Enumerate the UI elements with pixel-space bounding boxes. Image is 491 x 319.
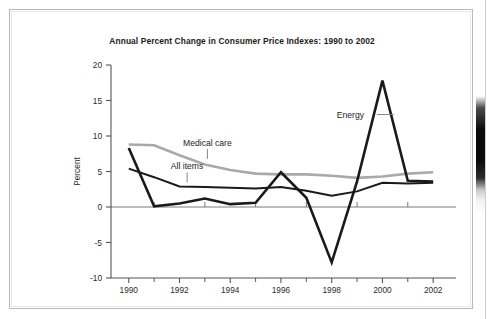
y-axis-tick-label: -5 bbox=[95, 238, 103, 248]
x-axis-tick-label: 1998 bbox=[322, 285, 341, 295]
y-axis-tick-label: 5 bbox=[97, 167, 102, 177]
y-axis-tick-label: 0 bbox=[97, 202, 102, 212]
y-axis-tick-label: 15 bbox=[93, 96, 103, 106]
svg-text:All items: All items bbox=[171, 161, 203, 171]
page-frame: Annual Percent Change in Consumer Price … bbox=[9, 9, 473, 309]
line-chart: 20151050-5-10Percent19901992199419961998… bbox=[10, 10, 474, 310]
series-annotation-energy: Energy bbox=[337, 110, 394, 120]
svg-text:Energy: Energy bbox=[337, 110, 365, 120]
y-axis-tick-label: 10 bbox=[93, 131, 103, 141]
y-axis-title: Percent bbox=[72, 157, 82, 186]
x-axis-tick-label: 1994 bbox=[221, 285, 240, 295]
svg-text:Medical care: Medical care bbox=[183, 138, 232, 148]
x-axis-tick-label: 1990 bbox=[120, 285, 139, 295]
x-axis-tick-label: 2000 bbox=[373, 285, 392, 295]
chart-figure: 20151050-5-10Percent19901992199419961998… bbox=[10, 10, 474, 310]
x-axis-tick-label: 1992 bbox=[170, 285, 189, 295]
scan-edge-shadow bbox=[476, 0, 485, 319]
series-annotation-all-items: All items bbox=[171, 161, 203, 182]
y-axis-tick-label: 20 bbox=[93, 60, 103, 70]
x-axis-tick-label: 1996 bbox=[272, 285, 291, 295]
series-line-energy bbox=[129, 81, 433, 263]
scan-page-margin bbox=[485, 0, 491, 319]
x-axis-tick-label: 2002 bbox=[424, 285, 443, 295]
y-axis-tick-label: -10 bbox=[90, 273, 102, 283]
series-annotation-medical-care: Medical care bbox=[183, 138, 232, 159]
